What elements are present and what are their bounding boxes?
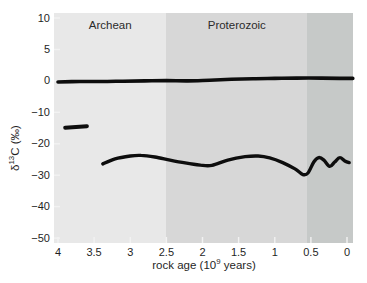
x-tick-label: 3.5 (86, 246, 101, 258)
chart-canvas (0, 0, 367, 283)
x-tick-label: 0.5 (303, 246, 318, 258)
series-organic-carbon-line (103, 155, 349, 175)
x-tick-label: 1 (272, 246, 278, 258)
y-tick-label: −40 (10, 200, 50, 212)
y-axis-title-text: δ (9, 164, 21, 170)
x-tick-label: 0 (344, 246, 350, 258)
x-tick-label: 4 (55, 246, 61, 258)
y-tick-label: 10 (10, 12, 50, 24)
y-tick-label: 5 (10, 43, 50, 55)
series-archean-organic-segment (65, 126, 87, 128)
x-axis-title-text: rock age (10 (152, 259, 216, 271)
x-axis-title: rock age (109 years) (152, 257, 255, 271)
y-tick-label: −10 (10, 106, 50, 118)
y-axis-title-text-2: C (‰) (9, 125, 21, 156)
y-axis-title: δ13C (‰) (7, 125, 21, 171)
era-label-proterozoic: Proterozoic (208, 19, 266, 31)
x-tick-label: 3 (127, 246, 133, 258)
superscript: 13 (7, 156, 16, 165)
x-axis-title-text-2: years) (221, 259, 256, 271)
era-label-archean: Archean (89, 19, 132, 31)
series-carbonate-line (58, 78, 353, 82)
y-tick-label: −50 (10, 232, 50, 244)
y-tick-label: 0 (10, 74, 50, 86)
carbon-isotope-chart: ArcheanProterozoic 43.532.521.510.50 105… (0, 0, 367, 283)
